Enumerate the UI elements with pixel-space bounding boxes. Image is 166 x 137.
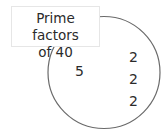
factor-2-third: 2 (129, 93, 138, 109)
set-label-line2: of 40 (12, 44, 99, 61)
set-label-line1: Prime factors (12, 10, 99, 44)
factor-5: 5 (75, 63, 84, 79)
factor-2-second: 2 (129, 71, 138, 87)
prime-factor-diagram: Prime factors of 40 5 2 2 2 (0, 0, 166, 137)
set-label: Prime factors of 40 (11, 6, 100, 47)
factor-2-first: 2 (129, 49, 138, 65)
